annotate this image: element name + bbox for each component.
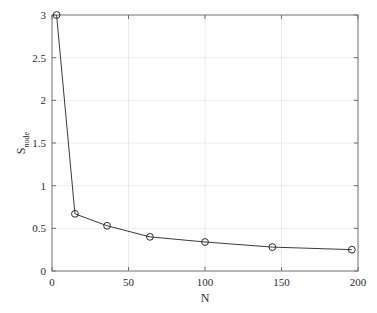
y-tick-label: 0.5: [32, 223, 46, 234]
y-tick-label: 3: [41, 10, 47, 21]
y-tick-label: 2.5: [32, 52, 46, 63]
x-axis-label: N: [201, 292, 210, 304]
x-tick-label: 150: [273, 277, 290, 288]
figure-canvas: N Snode 05010015020000.511.522.53: [0, 0, 377, 313]
y-tick-label: 1: [41, 180, 47, 191]
y-axis-label: Snode: [15, 132, 30, 154]
y-tick-label: 1.5: [32, 138, 46, 149]
x-tick-label: 0: [49, 277, 55, 288]
y-tick-label: 0: [41, 266, 47, 277]
series-line-0: [57, 15, 352, 250]
y-axis-label-subscript: node: [22, 132, 31, 148]
y-tick-label: 2: [41, 95, 47, 106]
chart-plot-area: [0, 0, 377, 313]
x-tick-label: 100: [197, 277, 214, 288]
y-axis-label-base: S: [14, 147, 28, 154]
x-tick-label: 50: [123, 277, 134, 288]
x-tick-label: 200: [350, 277, 367, 288]
